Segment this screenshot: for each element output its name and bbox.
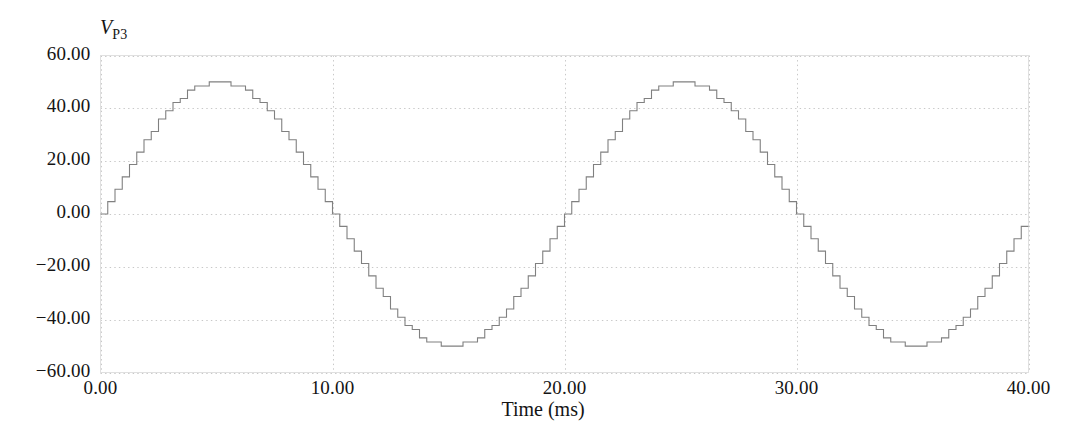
- y-tick-label: −20.00: [36, 254, 91, 276]
- x-tick-label: 20.00: [505, 377, 625, 399]
- waveform-plot: [0, 0, 1086, 438]
- y-axis-subscript: P3: [112, 27, 127, 42]
- x-axis-label: Time (ms): [0, 398, 1086, 421]
- x-tick-label: 30.00: [737, 377, 857, 399]
- y-tick-label: 40.00: [47, 95, 91, 117]
- y-tick-label: 0.00: [56, 201, 90, 223]
- x-tick-label: 0.00: [41, 377, 161, 399]
- y-tick-label: 20.00: [47, 148, 91, 170]
- x-tick-label: 10.00: [273, 377, 393, 399]
- y-tick-label: −40.00: [36, 307, 91, 329]
- y-axis-label: VP3: [100, 16, 128, 43]
- x-tick-label: 40.00: [969, 377, 1086, 399]
- y-axis-symbol: V: [100, 16, 112, 38]
- y-tick-label: 60.00: [47, 43, 91, 65]
- chart-figure: VP3 60.0040.0020.000.00−20.00−40.00−60.0…: [0, 0, 1086, 438]
